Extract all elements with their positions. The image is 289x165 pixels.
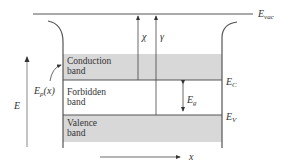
potential-energy-argument: (x) <box>44 85 55 96</box>
position-axis-label: x <box>189 152 193 162</box>
conduction-band-edge-label: EC <box>226 77 237 90</box>
potential-energy-pointer <box>50 65 61 81</box>
valence-band-label: Valence band <box>67 118 97 138</box>
valence-band-line-2: band <box>67 128 97 138</box>
forbidden-band-line-1: Forbidden <box>67 87 106 97</box>
conduction-band-line-1: Conduction <box>67 56 111 66</box>
potential-energy-label: Ep(x) <box>34 86 55 99</box>
electron-affinity-label: χ <box>142 32 146 42</box>
gamma-symbol: γ <box>160 31 164 42</box>
conduction-band-edge-subscript: C <box>232 81 237 89</box>
forbidden-band-line-2: band <box>67 97 106 107</box>
vacuum-level-subscript: vac <box>264 13 274 21</box>
work-function-label: γ <box>160 32 164 42</box>
valence-band-edge-subscript: V <box>232 116 236 124</box>
valence-band-edge-label: EV <box>226 112 236 125</box>
band-gap-subscript: g <box>193 99 197 107</box>
energy-axis-symbol: E <box>14 100 20 111</box>
forbidden-band-label: Forbidden band <box>67 87 106 107</box>
band-diagram-graphics <box>0 0 289 165</box>
vacuum-level-label: Evac <box>258 9 274 22</box>
energy-axis-label: E <box>14 101 20 111</box>
conduction-band-label: Conduction band <box>67 56 111 76</box>
band-diagram: Evac χ γ Ep(x) E EC EV Eg x Conduction b… <box>0 0 289 165</box>
band-gap-label: Eg <box>187 95 197 108</box>
valence-band-line-1: Valence <box>67 118 97 128</box>
chi-symbol: χ <box>142 31 146 42</box>
position-axis-symbol: x <box>189 151 193 162</box>
conduction-band-line-2: band <box>67 66 111 76</box>
